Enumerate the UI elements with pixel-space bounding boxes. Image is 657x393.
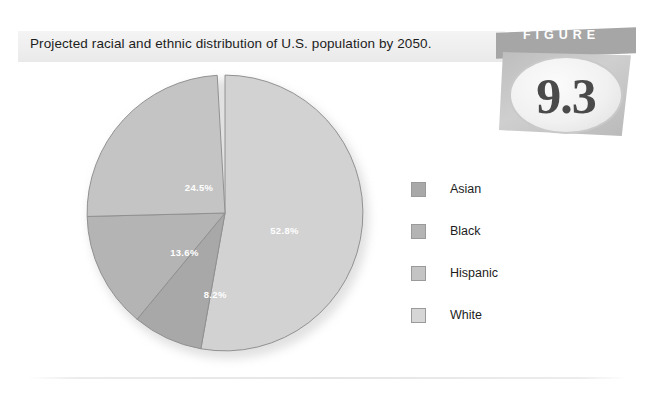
legend-item-asian: Asian (411, 168, 581, 210)
pie-chart: 52.8%8.2%13.6%24.5% (85, 73, 365, 353)
pie-chart-svg: 52.8%8.2%13.6%24.5% (85, 73, 365, 353)
pie-slice-label-hispanic: 24.5% (185, 182, 214, 193)
legend-swatch-black (411, 224, 426, 239)
legend-swatch-hispanic (411, 266, 426, 281)
figure-badge: FIGURE 9.3 (489, 22, 641, 140)
legend-swatch-white (411, 308, 426, 323)
bottom-divider (28, 377, 628, 379)
figure-number: 9.3 (511, 58, 621, 132)
legend-label-hispanic: Hispanic (450, 266, 498, 280)
legend-swatch-asian (411, 182, 426, 197)
figure-banner-label: FIGURE (489, 22, 629, 48)
chart-legend: Asian Black Hispanic White (411, 168, 581, 336)
legend-label-asian: Asian (450, 182, 481, 196)
pie-slice-group (87, 75, 363, 351)
figure-caption: Projected racial and ethnic distribution… (30, 36, 500, 51)
legend-item-white: White (411, 294, 581, 336)
legend-item-black: Black (411, 210, 581, 252)
legend-item-hispanic: Hispanic (411, 252, 581, 294)
pie-slice-label-white: 52.8% (270, 225, 299, 236)
figure-container: Projected racial and ethnic distribution… (0, 0, 657, 393)
legend-label-black: Black (450, 224, 481, 238)
pie-slice-hispanic (87, 75, 225, 216)
legend-label-white: White (450, 308, 482, 322)
pie-slice-label-black: 13.6% (170, 247, 199, 258)
pie-slice-label-asian: 8.2% (204, 289, 227, 300)
